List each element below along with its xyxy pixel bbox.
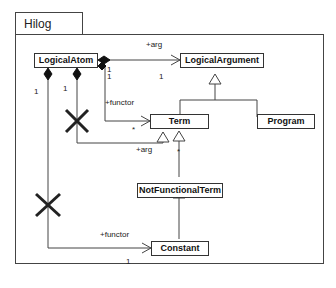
class-constant[interactable]: Constant <box>151 241 209 256</box>
mult-arg-term-source: 1 <box>63 84 67 93</box>
class-term[interactable]: Term <box>150 114 209 129</box>
mult-functor-constant-target: 1 <box>126 257 130 266</box>
mult-functor-term-target: * <box>132 125 135 134</box>
class-not-functional-term[interactable]: NotFunctionalTerm <box>137 183 223 198</box>
label-arg-term: +arg <box>136 145 152 154</box>
mult-arg-term-target: * <box>177 147 180 156</box>
label-functor-term: +functor <box>105 98 134 107</box>
class-program[interactable]: Program <box>257 114 315 129</box>
class-logical-argument[interactable]: LogicalArgument <box>180 53 264 68</box>
mult-functor-term-source: 1 <box>107 65 111 74</box>
label-arg-top: +arg <box>146 40 162 49</box>
mult-arg-top-target: 1 <box>159 72 163 81</box>
mult-functor-constant-source: 1 <box>34 87 38 96</box>
label-functor-constant: +functor <box>100 230 129 239</box>
class-logical-atom[interactable]: LogicalAtom <box>34 53 98 68</box>
